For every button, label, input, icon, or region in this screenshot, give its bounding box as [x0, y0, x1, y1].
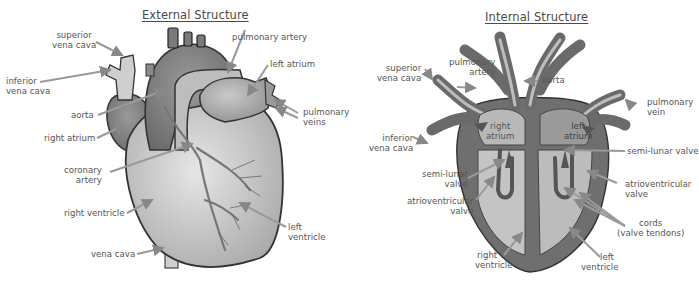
label-int-superior-vena-cava: superior vena cava: [377, 63, 421, 83]
label-int-right-ventricle: right ventricle: [475, 250, 513, 270]
label-ext-right-atrium: right atrium: [44, 133, 95, 143]
label-ext-inferior-vena-cava: inferior vena cava: [6, 76, 50, 96]
heart-diagram: External Structure Internal Structure su…: [0, 0, 699, 285]
label-ext-right-ventricle: right ventricle: [64, 208, 124, 218]
label-ext-pulmonary-artery: pulmonary artery: [232, 32, 307, 42]
label-int-pulmonary-artery: pulmonary artery: [449, 57, 495, 77]
label-int-right-atrium: right atrium: [486, 121, 514, 141]
label-ext-left-atrium: left atrium: [270, 59, 315, 69]
label-int-aorta: aorta: [542, 75, 565, 85]
label-ext-vena-cava: vena cava: [91, 249, 135, 259]
heart-illustrations: [0, 0, 699, 285]
label-int-pulmonary-vein: pulmonary vein: [647, 97, 693, 117]
label-int-atrioventricular-valve-left: atrioventricular valve: [407, 196, 473, 216]
label-ext-left-ventricle: left ventricle: [288, 222, 326, 242]
label-ext-coronary-artery: coronary artery: [64, 165, 102, 185]
label-int-semi-lunar-valve-right: semi-lunar valve: [627, 146, 699, 156]
label-ext-aorta: aorta: [71, 110, 94, 120]
external-structure-title: External Structure: [142, 8, 249, 22]
label-int-cords: cords (valve tendons): [617, 218, 684, 238]
label-int-left-atrium: left atrium: [564, 121, 592, 141]
label-int-inferior-vena-cava: inferior vena cava: [369, 133, 413, 153]
label-int-semi-lunar-valve-left: semi-lunar valve: [422, 169, 468, 189]
label-ext-pulmonary-veins: pulmonary veins: [303, 107, 349, 127]
label-int-left-ventricle: left ventricle: [581, 252, 619, 272]
label-ext-superior-vena-cava: superior vena cava: [52, 30, 96, 50]
label-int-atrioventricular-valve-right: atrioventricular valve: [625, 179, 691, 199]
internal-structure-title: Internal Structure: [485, 10, 588, 24]
external-heart: [106, 28, 283, 268]
